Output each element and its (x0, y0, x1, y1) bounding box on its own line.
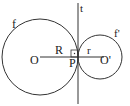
right-angle-dot (74, 53, 75, 54)
label-P: P (69, 56, 76, 70)
label-O: O (30, 53, 39, 67)
label-f: f (12, 17, 16, 31)
label-t: t (80, 2, 83, 14)
label-r: r (87, 44, 91, 56)
label-f-prime: f' (114, 27, 120, 39)
tangent-circles-diagram: f f' t O O' P R r (0, 0, 130, 106)
label-O-prime: O' (100, 53, 111, 67)
label-R: R (55, 43, 63, 57)
